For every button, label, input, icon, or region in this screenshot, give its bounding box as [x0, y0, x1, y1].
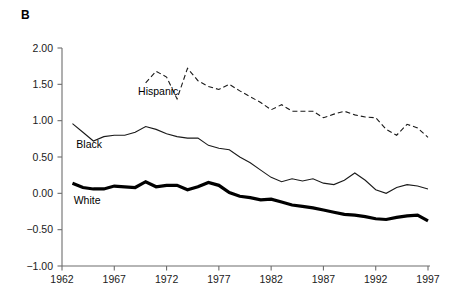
series-line-hispanic [146, 68, 428, 137]
panel-label: B [21, 8, 30, 22]
series-line-white [72, 182, 428, 221]
y-axis-tick-label: −1.00 [26, 260, 53, 272]
y-axis: −1.00−0.500.000.501.001.502.00 [26, 42, 62, 272]
x-axis-tick-label: 1987 [312, 273, 336, 285]
data-series-group [72, 68, 428, 221]
y-axis-tick-label: 0.50 [33, 151, 54, 163]
y-axis-tick-label: 0.00 [33, 187, 54, 199]
x-axis-tick-label: 1977 [207, 273, 231, 285]
x-axis-tick-label: 1997 [416, 273, 440, 285]
line-chart: −1.00−0.500.000.501.001.502.00 196219671… [0, 0, 458, 304]
y-axis-tick-label: 1.50 [33, 78, 54, 90]
y-axis-tick-label: 2.00 [33, 42, 54, 54]
series-label-hispanic: Hispanic [138, 85, 178, 97]
series-label-white: White [74, 194, 101, 206]
x-axis-tick-label: 1967 [103, 273, 127, 285]
y-axis-tick-label: 1.00 [33, 114, 54, 126]
series-line-black [72, 124, 428, 194]
x-axis: 19621967197219771982198719921997 [50, 266, 440, 285]
x-axis-tick-label: 1972 [155, 273, 179, 285]
x-axis-tick-label: 1982 [259, 273, 283, 285]
x-axis-tick-label: 1992 [364, 273, 388, 285]
series-label-black: Black [76, 138, 102, 150]
figure-panel-b: B −1.00−0.500.000.501.001.502.00 1962196… [0, 0, 458, 304]
x-axis-tick-label: 1962 [50, 273, 74, 285]
y-axis-tick-label: −0.50 [26, 223, 53, 235]
